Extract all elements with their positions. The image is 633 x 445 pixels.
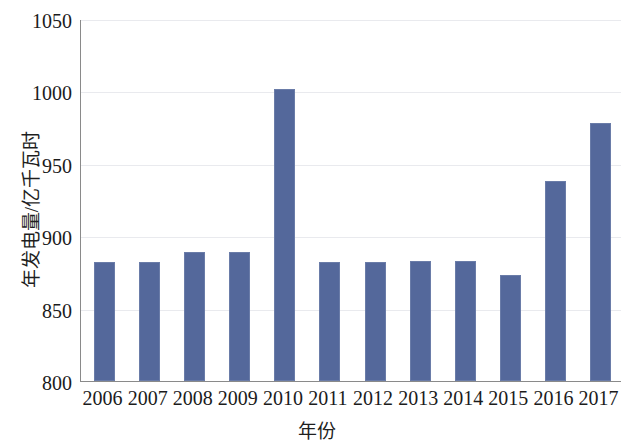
x-axis-tick-label: 2009	[213, 388, 263, 408]
y-axis-tick-label: 800	[0, 373, 72, 393]
y-axis-tick-label: 950	[0, 156, 72, 176]
x-axis-tick-label: 2017	[573, 388, 623, 408]
x-axis-tick-label: 2015	[483, 388, 533, 408]
y-axis-tick-label: 900	[0, 228, 72, 248]
bar	[500, 275, 521, 381]
bar	[94, 262, 115, 381]
bar-chart: 年发电量/亿千瓦时 80085090095010001050 年份 200620…	[0, 0, 633, 445]
x-axis-tick-label: 2014	[438, 388, 488, 408]
x-axis-tick-label: 2008	[168, 388, 218, 408]
bar	[365, 262, 386, 381]
bar	[590, 123, 611, 381]
x-axis-tick-label: 2007	[123, 388, 173, 408]
bar	[274, 89, 295, 381]
plot-area	[80, 20, 621, 382]
bar	[410, 261, 431, 381]
x-axis-tick-label: 2006	[78, 388, 128, 408]
bar	[319, 262, 340, 381]
y-axis-tick-label: 850	[0, 301, 72, 321]
bar	[455, 261, 476, 381]
x-axis-title: 年份	[0, 416, 633, 443]
bar	[139, 262, 160, 381]
x-axis-tick-label: 2012	[348, 388, 398, 408]
bar	[545, 181, 566, 381]
x-axis-tick-label: 2016	[528, 388, 578, 408]
x-axis-tick-label: 2010	[258, 388, 308, 408]
y-axis-tick-label: 1000	[0, 83, 72, 103]
x-axis-tick-label: 2011	[303, 388, 353, 408]
bar	[184, 252, 205, 381]
x-axis-tick-label: 2013	[393, 388, 443, 408]
bar	[229, 252, 250, 381]
bars-layer	[81, 20, 621, 381]
y-axis-tick-label: 1050	[0, 11, 72, 31]
